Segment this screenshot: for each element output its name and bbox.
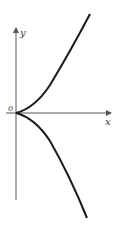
origin-label: 0 <box>8 104 13 113</box>
x-axis-label: x <box>105 116 111 127</box>
lower-branch-curve <box>16 113 87 218</box>
upper-branch-curve <box>16 14 90 113</box>
y-axis-label: y <box>19 27 26 38</box>
cusp-diagram: y x 0 <box>0 0 119 225</box>
